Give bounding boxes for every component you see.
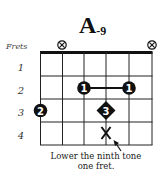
finger-number: 2	[37, 106, 44, 117]
finger-number: 1	[81, 83, 88, 94]
annotation-line-2: one fret.	[40, 161, 152, 171]
frets	[40, 76, 153, 145]
finger-dot: 2	[34, 104, 48, 118]
nut	[40, 51, 153, 54]
finger-number: 1	[126, 83, 133, 94]
muted-string-icon	[58, 41, 66, 49]
finger-dot: 1	[122, 81, 136, 95]
muted-string-icon	[148, 41, 156, 49]
diamond-finger-marker: 3	[97, 101, 116, 120]
finger-dot: 1	[77, 81, 91, 95]
finger-number: 3	[103, 106, 110, 117]
annotation-caption: Lower the ninth tone one fret.	[40, 151, 152, 171]
annotation-line-1: Lower the ninth tone	[40, 151, 152, 161]
